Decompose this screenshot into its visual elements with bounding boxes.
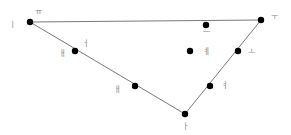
point-label: ㅠ — [35, 8, 42, 16]
point-label: ㅖ — [203, 48, 210, 56]
triangle-diagram — [0, 0, 291, 135]
point-dot — [72, 48, 78, 54]
edge-line — [30, 22, 185, 114]
point-dot — [207, 83, 213, 89]
diagram-points — [27, 17, 264, 117]
point-label: ㅕ — [221, 82, 228, 90]
point-dot — [235, 48, 241, 54]
point-dot — [132, 83, 138, 89]
point-label: ㅐ — [59, 50, 66, 58]
point-dot — [182, 111, 188, 117]
point-label: ㅏ — [182, 123, 189, 131]
point-label: ㅣ — [9, 21, 16, 29]
edge-line — [185, 20, 261, 114]
point-label: ㅐ — [114, 86, 121, 94]
edge-line — [30, 20, 261, 22]
point-label: ㅗ — [248, 48, 255, 56]
triangle-edges — [30, 20, 261, 114]
point-label: ㅡ — [203, 29, 210, 37]
point-dot — [27, 19, 33, 25]
point-dot — [187, 48, 193, 54]
point-label: ㅓ — [82, 40, 89, 48]
point-dot — [258, 17, 264, 23]
point-label: ㅜ — [271, 13, 278, 21]
